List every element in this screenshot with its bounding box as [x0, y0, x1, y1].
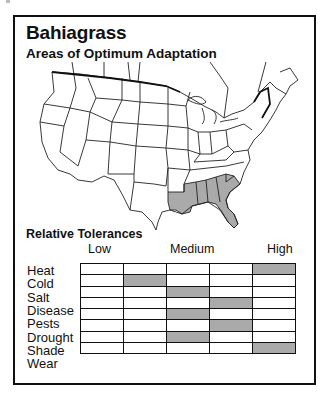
- tolerance-cell-filled: [210, 297, 253, 308]
- tolerance-cell: [167, 297, 210, 308]
- tolerance-cell: [210, 331, 253, 342]
- tolerance-row: [81, 331, 296, 342]
- tolerance-cell: [81, 309, 124, 320]
- tolerance-cell-filled: [167, 309, 210, 320]
- tolerance-cell: [124, 297, 167, 308]
- tolerance-cell: [210, 264, 253, 275]
- row-label: Pests: [27, 317, 60, 330]
- tolerance-cell: [124, 264, 167, 275]
- tolerance-row: [81, 286, 296, 297]
- tolerances-title: Relative Tolerances: [26, 227, 143, 241]
- page-title: Bahiagrass: [26, 22, 126, 44]
- tolerance-cell-filled: [167, 286, 210, 297]
- tolerance-cell: [210, 309, 253, 320]
- row-label: Cold: [27, 277, 54, 290]
- tolerance-cell-filled: [253, 343, 296, 354]
- tolerance-cell: [81, 320, 124, 331]
- map-subtitle: Areas of Optimum Adaptation: [26, 46, 217, 61]
- tolerance-cell-filled: [167, 331, 210, 342]
- tolerance-cell: [81, 331, 124, 342]
- scale-high-label: High: [267, 242, 293, 256]
- tolerance-row: [81, 275, 296, 286]
- tolerance-cell: [253, 297, 296, 308]
- row-label: Salt: [27, 291, 49, 304]
- tolerance-row: [81, 343, 296, 354]
- tolerance-cell: [210, 343, 253, 354]
- tolerance-cell: [81, 264, 124, 275]
- us-adaptation-map: [30, 62, 300, 232]
- tolerance-row: [81, 297, 296, 308]
- tolerance-row: [81, 320, 296, 331]
- tolerance-cell: [124, 286, 167, 297]
- tolerance-cell: [81, 275, 124, 286]
- row-label: Shade: [27, 344, 65, 357]
- tolerance-cell: [253, 286, 296, 297]
- page-mark: [6, 0, 10, 3]
- tolerance-row: [81, 309, 296, 320]
- tolerance-cell: [167, 264, 210, 275]
- row-label: Disease: [27, 304, 74, 317]
- tolerance-cell: [253, 309, 296, 320]
- tolerance-cell: [167, 275, 210, 286]
- shaded-southeast-region: [168, 174, 240, 228]
- tolerance-cell-filled: [210, 320, 253, 331]
- tolerance-cell: [167, 343, 210, 354]
- tolerance-cell: [253, 275, 296, 286]
- tolerance-grid: [80, 263, 296, 354]
- tolerance-cell: [210, 286, 253, 297]
- tolerance-cell: [253, 320, 296, 331]
- tolerance-cell: [210, 275, 253, 286]
- tolerance-cell-filled: [253, 264, 296, 275]
- tolerance-cell: [124, 331, 167, 342]
- row-label: Heat: [27, 264, 54, 277]
- tolerance-cell: [124, 320, 167, 331]
- tolerance-cell: [81, 343, 124, 354]
- tolerance-cell: [253, 331, 296, 342]
- scale-low-label: Low: [88, 242, 111, 256]
- tolerance-cell: [81, 297, 124, 308]
- tolerance-cell: [124, 343, 167, 354]
- tolerance-cell: [167, 320, 210, 331]
- tolerance-cell: [81, 286, 124, 297]
- tolerance-cell-filled: [124, 275, 167, 286]
- tolerance-row: [81, 264, 296, 275]
- tolerance-cell: [124, 309, 167, 320]
- scale-medium-label: Medium: [170, 242, 214, 256]
- row-label: Drought: [27, 331, 73, 344]
- row-label: Wear: [27, 357, 58, 370]
